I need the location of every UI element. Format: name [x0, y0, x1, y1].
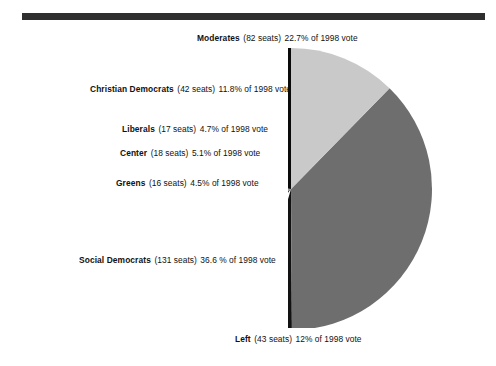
pie-label-center: Center(18 seats)5.1% of 1998 vote — [120, 148, 260, 159]
pie-label-christian-democrats-party: Christian Democrats — [90, 84, 174, 94]
header-rule — [22, 13, 485, 20]
pie-slice-moderates — [288, 48, 291, 189]
pie-label-liberals-share: 4.7% of 1998 vote — [200, 124, 268, 134]
pie-label-left-share: 12% of 1998 vote — [296, 334, 362, 344]
pie-label-greens-share: 4.5% of 1998 vote — [190, 178, 258, 188]
figure-page: Moderates(82 seats)22.7% of 1998 vote Ch… — [0, 0, 496, 366]
pie-label-left-seats: (43 seats) — [254, 334, 292, 344]
pie-label-social-democrats: Social Democrats(131 seats)36.6 % of 199… — [79, 255, 276, 266]
pie-label-center-seats: (18 seats) — [151, 148, 189, 158]
pie-label-center-party: Center — [120, 148, 147, 158]
pie-label-center-share: 5.1% of 1998 vote — [192, 148, 260, 158]
pie-label-christian-democrats-seats: (42 seats) — [177, 84, 215, 94]
pie-label-social-democrats-seats: (131 seats) — [154, 255, 196, 265]
pie-label-greens-seats: (16 seats) — [149, 178, 187, 188]
pie-label-greens-party: Greens — [116, 178, 145, 188]
pie-label-left: Left(43 seats)12% of 1998 vote — [235, 334, 362, 345]
pie-label-moderates-share: 22.7% of 1998 vote — [285, 33, 358, 43]
pie-label-christian-democrats-share: 11.8% of 1998 vote — [219, 84, 291, 94]
pie-label-christian-democrats: Christian Democrats(42 seats)11.8% of 19… — [90, 84, 291, 95]
pie-label-liberals-seats: (17 seats) — [158, 124, 196, 134]
pie-label-left-party: Left — [235, 334, 251, 344]
pie-chart-svg — [288, 46, 436, 328]
pie-label-social-democrats-party: Social Democrats — [79, 255, 151, 265]
pie-label-greens: Greens(16 seats)4.5% of 1998 vote — [116, 178, 259, 189]
pie-label-moderates: Moderates(82 seats)22.7% of 1998 vote — [197, 33, 358, 44]
pie-label-liberals-party: Liberals — [122, 124, 155, 134]
pie-label-moderates-party: Moderates — [197, 33, 240, 43]
pie-label-social-democrats-share: 36.6 % of 1998 vote — [200, 255, 275, 265]
pie-label-liberals: Liberals(17 seats)4.7% of 1998 vote — [122, 124, 268, 135]
pie-chart — [288, 46, 436, 328]
pie-label-moderates-seats: (82 seats) — [243, 33, 281, 43]
